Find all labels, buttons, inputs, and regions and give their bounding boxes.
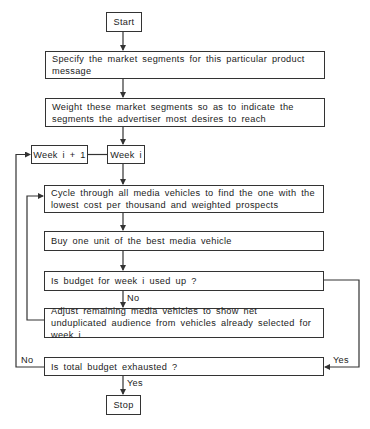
total-budget-decision-label: Is total budget exhausted ?: [51, 361, 177, 373]
total-budget-decision-node: Is total budget exhausted ?: [44, 357, 324, 376]
start-label: Start: [114, 16, 135, 28]
week-budget-yes-label: Yes: [333, 355, 349, 365]
cycle-vehicles-node: Cycle through all media vehicles to find…: [44, 185, 324, 213]
stop-node: Stop: [106, 395, 141, 415]
week-budget-decision-label: Is budget for week i used up ?: [51, 275, 197, 287]
week-current-label: Week i: [110, 149, 142, 161]
week-current-node: Week i: [107, 145, 145, 164]
weight-segments-node: Weight these market segments so as to in…: [45, 98, 325, 127]
week-budget-no-label: No: [127, 293, 139, 303]
flowchart-canvas: Start Specify the market segments for th…: [0, 0, 370, 429]
specify-segments-label: Specify the market segments for this par…: [52, 53, 318, 77]
weight-segments-label: Weight these market segments so as to in…: [52, 101, 318, 125]
week-budget-decision-node: Is budget for week i used up ?: [44, 271, 324, 291]
week-next-node: Week i + 1: [31, 145, 88, 164]
buy-unit-node: Buy one unit of the best media vehicle: [44, 231, 324, 251]
total-budget-no-label: No: [21, 355, 33, 365]
specify-segments-node: Specify the market segments for this par…: [45, 51, 325, 79]
stop-label: Stop: [113, 399, 133, 411]
adjust-vehicles-node: Adjust remaining media vehicles to show …: [44, 308, 324, 338]
week-next-label: Week i + 1: [33, 149, 86, 161]
cycle-vehicles-label: Cycle through all media vehicles to find…: [51, 187, 317, 211]
adjust-vehicles-label: Adjust remaining media vehicles to show …: [51, 305, 317, 341]
total-budget-yes-label: Yes: [127, 378, 143, 388]
start-node: Start: [106, 12, 142, 32]
buy-unit-label: Buy one unit of the best media vehicle: [51, 235, 232, 247]
